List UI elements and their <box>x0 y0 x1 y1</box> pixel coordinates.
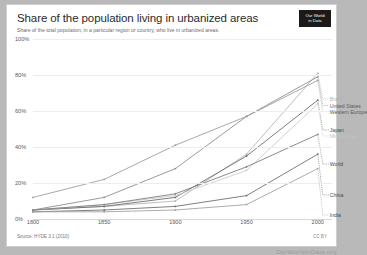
legend-leader-line <box>318 77 329 106</box>
chart-header: Share of the population living in urbani… <box>17 12 272 33</box>
series-point <box>32 211 34 213</box>
logo-line-2: in Data <box>299 18 331 23</box>
license-note: CC BY <box>313 234 327 239</box>
legend-label-brazil[interactable]: Brazil <box>330 96 343 102</box>
legend-leader-line <box>318 104 329 136</box>
gridline-y-0 <box>33 219 332 220</box>
page-title: Share of the population living in urbani… <box>17 12 272 25</box>
legend-leader-line <box>318 80 329 111</box>
gridline-y-100 <box>33 39 332 40</box>
series-point <box>246 116 248 118</box>
series-point <box>174 144 176 146</box>
series-point <box>103 206 105 208</box>
series-point <box>174 209 176 211</box>
series-point <box>246 153 248 155</box>
series-point <box>174 200 176 202</box>
series-point <box>174 195 176 197</box>
y-axis-tick-label: 0% <box>15 216 23 222</box>
y-axis-tick-label: 80% <box>15 72 26 78</box>
gridline-y-20 <box>33 183 332 184</box>
chart-lines <box>7 35 338 230</box>
series-point <box>246 170 248 172</box>
legend-leader-line <box>318 134 329 164</box>
legend-leader-line <box>318 154 329 195</box>
x-axis-tick-label: 2000 <box>312 219 324 225</box>
gridline-y-40 <box>33 147 332 148</box>
y-axis-tick-label: 100% <box>15 36 29 42</box>
series-point <box>246 195 248 197</box>
chart-subtitle: Share of the total population, in a part… <box>17 27 272 33</box>
series-point <box>32 209 34 211</box>
gridline-y-80 <box>33 75 332 76</box>
legend-leader-line <box>318 169 329 215</box>
x-axis-tick-label: 1800 <box>27 219 39 225</box>
legend-label-india[interactable]: India <box>330 212 341 218</box>
site-watermark: OurWorldInData.org <box>276 249 337 255</box>
x-axis-tick-label: 1900 <box>169 219 181 225</box>
x-axis-tick-label: 1850 <box>98 219 110 225</box>
series-point <box>174 193 176 195</box>
y-axis-tick-label: 60% <box>15 108 26 114</box>
series-point <box>103 204 105 206</box>
plot-area: 0%20%40%60%80%100%18001850190019502000Br… <box>7 35 338 230</box>
series-line <box>33 169 318 212</box>
series-point <box>174 197 176 199</box>
legend-label-world[interactable]: World <box>330 161 343 167</box>
chart-card: Share of the population living in urbani… <box>6 4 337 247</box>
our-world-in-data-logo[interactable]: Our World in Data <box>299 10 331 27</box>
series-point <box>174 206 176 208</box>
series-point <box>246 166 248 168</box>
series-point <box>246 204 248 206</box>
gridline-y-60 <box>33 111 332 112</box>
series-point <box>32 197 34 199</box>
series-point <box>103 197 105 199</box>
y-axis-tick-label: 40% <box>15 144 26 150</box>
series-point <box>103 211 105 213</box>
y-axis-tick-label: 20% <box>15 180 26 186</box>
series-line <box>33 73 318 210</box>
legend-label-middle-east[interactable]: Middle East <box>330 133 357 139</box>
legend-label-china[interactable]: China <box>330 192 344 198</box>
series-point <box>246 155 248 157</box>
series-point <box>103 209 105 211</box>
source-note: Source: HYDE 3.1 (2010) <box>17 234 69 239</box>
series-point <box>103 179 105 181</box>
series-line <box>33 80 318 197</box>
series-point <box>174 168 176 170</box>
legend-label-western-europe[interactable]: Western Europe <box>330 109 367 115</box>
x-axis-tick-label: 1950 <box>240 219 252 225</box>
